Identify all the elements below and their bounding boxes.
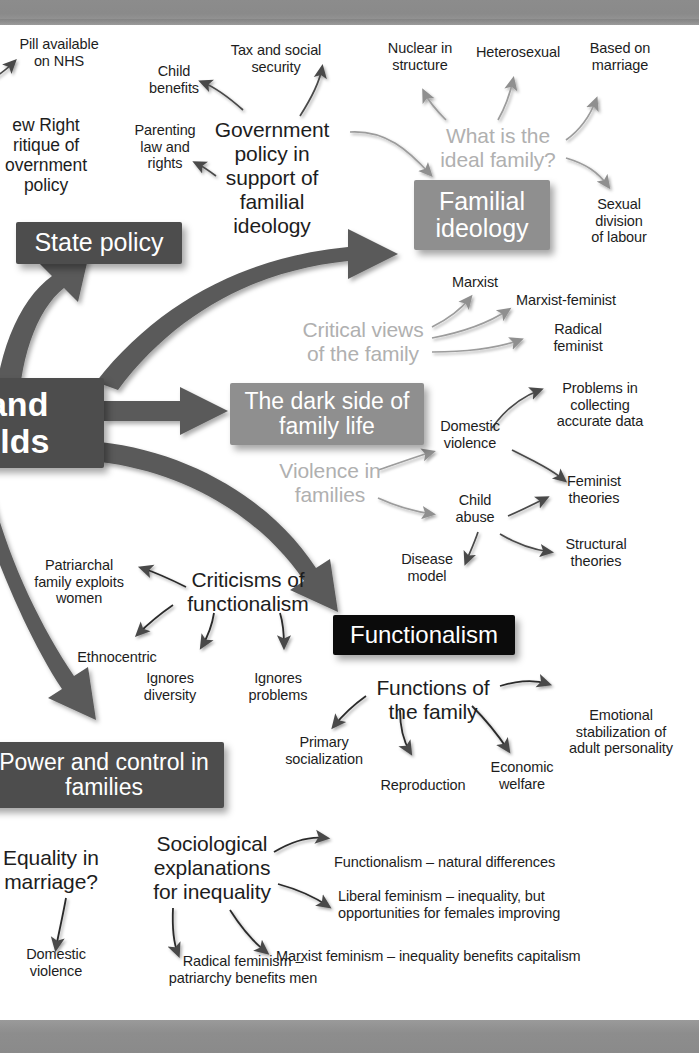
label-tax-and-social-security: Tax and social security	[216, 42, 336, 75]
label-liberal-feminism-opportunities: Liberal feminism – inequality, but oppor…	[338, 888, 638, 921]
arrow-critical-to-marxist-feminist	[432, 310, 508, 338]
node-families-and-households-central[interactable]: s and holds	[0, 378, 104, 468]
label-parenting-law-and-rights: Parenting law and rights	[126, 122, 204, 172]
label-pill-available-on-nhs: Pill available on NHS	[6, 36, 112, 69]
arrow-gov-to-child-benefits	[202, 82, 243, 110]
heading-government-policy: Government policy in support of familial…	[208, 118, 336, 238]
label-nuclear-in-structure: Nuclear in structure	[374, 40, 466, 73]
node-state-policy[interactable]: State policy	[16, 222, 182, 264]
arrow-socio-to-radical-feminism	[173, 908, 178, 954]
arrow-child-abuse-to-disease-model	[466, 532, 478, 562]
label-radical-feminism-patriarchy: Radical feminism – patriarchy benefits m…	[158, 953, 328, 986]
arrow-child-abuse-to-structural	[500, 534, 550, 552]
heading-equality-in-marriage: Equality in marriage?	[0, 846, 112, 894]
heading-critical-views-of-the-family: Critical views of the family	[294, 318, 432, 366]
arrow-equality-to-domestic-violence	[56, 898, 66, 948]
node-power-and-control-in-families[interactable]: Power and control in families	[0, 742, 224, 808]
node-dark-side-of-family-life[interactable]: The dark side of family life	[230, 383, 424, 445]
arrow-ideal-to-marriage	[566, 100, 596, 140]
heading-criticisms-of-functionalism: Criticisms of functionalism	[182, 568, 314, 616]
label-disease-model: Disease model	[394, 551, 460, 584]
mindmap-page: State policy Familial ideology The dark …	[0, 0, 699, 1053]
arrow-criticisms-to-ignores-problems	[280, 613, 284, 646]
arrow-violence-to-domestic	[378, 452, 432, 470]
label-radical-feminist: Radical feminist	[540, 321, 616, 354]
arrow-criticisms-to-patriarchal	[142, 568, 186, 587]
label-domestic-violence-2: Domestic violence	[16, 946, 96, 979]
heading-what-is-the-ideal-family: What is the ideal family?	[426, 124, 570, 172]
node-functionalism[interactable]: Functionalism	[333, 615, 515, 655]
label-domestic-violence-1: Domestic violence	[430, 418, 510, 451]
arrow-socio-to-marxist-feminism	[230, 910, 266, 952]
label-primary-socialization: Primary socialization	[278, 734, 370, 767]
arrow-ideal-to-sexual-division	[566, 158, 608, 186]
label-based-on-marriage: Based on marriage	[578, 40, 662, 73]
label-functionalism-natural-differences: Functionalism – natural differences	[334, 854, 594, 871]
arrow-central-to-dark-side	[104, 387, 228, 435]
arrow-gov-to-tax-security	[300, 68, 322, 116]
node-familial-ideology[interactable]: Familial ideology	[414, 180, 550, 250]
arrow-criticisms-to-ignores-diversity	[202, 613, 214, 646]
arrow-familial-box-to-ideal	[350, 132, 430, 174]
label-ignores-problems: Ignores problems	[242, 670, 314, 703]
label-patriarchal-family-exploits-women: Patriarchal family exploits women	[20, 557, 138, 607]
label-sexual-division-of-labour: Sexual division of labour	[580, 196, 658, 246]
label-new-right-critique: ew Right ritique of overnment policy	[0, 116, 108, 196]
label-child-benefits: Child benefits	[140, 63, 208, 96]
label-economic-welfare: Economic welfare	[484, 759, 560, 792]
label-ethnocentric: Ethnocentric	[68, 649, 166, 666]
label-problems-collecting-accurate-data: Problems in collecting accurate data	[548, 380, 652, 430]
label-feminist-theories: Feminist theories	[556, 473, 632, 506]
label-ignores-diversity: Ignores diversity	[134, 670, 206, 703]
arrow-critical-to-marxist	[432, 298, 470, 327]
arrow-ideal-to-nuclear	[424, 92, 446, 120]
heading-violence-in-families: Violence in families	[278, 459, 382, 507]
arrow-violence-to-child-abuse	[378, 498, 432, 514]
arrow-ideal-to-heterosexual	[498, 80, 513, 120]
label-child-abuse: Child abuse	[446, 492, 504, 525]
label-structural-theories: Structural theories	[556, 536, 636, 569]
arrow-criticisms-to-ethnocentric	[138, 605, 173, 634]
label-marxist: Marxist	[444, 274, 506, 291]
label-marxist-feminist: Marxist-feminist	[504, 292, 628, 309]
label-reproduction: Reproduction	[372, 777, 474, 794]
label-heterosexual: Heterosexual	[470, 44, 566, 61]
arrow-functions-to-emotional-stabilization	[500, 681, 548, 686]
heading-functions-of-the-family: Functions of the family	[368, 676, 498, 724]
arrow-functions-to-primary-socialization	[334, 696, 366, 726]
arrow-child-abuse-to-feminist-theories	[508, 498, 546, 516]
label-emotional-stabilization-adult-personality: Emotional stabilization of adult persona…	[556, 707, 686, 757]
heading-sociological-explanations-for-inequality: Sociological explanations for inequality	[138, 832, 286, 904]
arrow-critical-to-radical-feminist	[432, 340, 520, 352]
